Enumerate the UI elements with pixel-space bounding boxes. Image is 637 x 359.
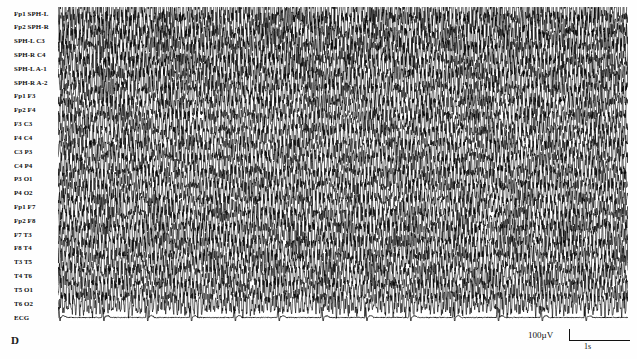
eeg-trace-p3-o1 [58,161,628,194]
channel-label-t4-t6: T4 T6 [14,272,32,280]
channel-label-fp2-f4: Fp2 F4 [14,106,35,114]
time-scale-label: 1s [584,342,591,351]
channel-label-ecg: ECG [14,314,29,322]
channel-label-p4-o2: P4 O2 [14,189,33,197]
channel-label-fp1-sph-l: Fp1 SPH-L [14,10,48,18]
channel-label-f4-c4: F4 C4 [14,134,32,142]
channel-label-sph-l-a-1: SPH-L A-1 [14,65,47,73]
amplitude-scale-label: 100µV [528,330,553,340]
channel-label-sph-l-c3: SPH-L C3 [14,37,45,45]
channel-label-sph-r-c4: SPH-R C4 [14,51,46,59]
eeg-trace-area [58,7,628,321]
trace-group [58,7,628,321]
panel-label: D [11,334,19,346]
channel-label-f7-t3: F7 T3 [14,231,32,239]
channel-label-fp2-f8: Fp2 F8 [14,217,35,225]
channel-label-t6-o2: T6 O2 [14,300,33,308]
channel-label-c3-p3: C3 P3 [14,148,32,156]
channel-label-fp2-sph-r: Fp2 SPH-R [14,23,49,31]
eeg-figure: Fp1 SPH-LFp2 SPH-RSPH-L C3SPH-R C4SPH-L … [0,0,637,359]
channel-label-t5-o1: T5 O1 [14,286,33,294]
channel-label-sph-r-a-2: SPH-R A-2 [14,79,48,87]
channel-label-c4-p4: C4 P4 [14,162,32,170]
channel-label-column: Fp1 SPH-LFp2 SPH-RSPH-L C3SPH-R C4SPH-L … [0,0,58,322]
channel-label-p3-o1: P3 O1 [14,175,33,183]
channel-label-f3-c3: F3 C3 [14,120,32,128]
channel-label-fp1-f7: Fp1 F7 [14,203,35,211]
channel-label-fp1-f3: Fp1 F3 [14,92,35,100]
time-scale-bar [569,340,630,341]
calibration-bar: 100µV 1s [528,328,634,354]
channel-label-t3-t5: T3 T5 [14,258,32,266]
channel-label-f8-t4: F8 T4 [14,244,32,252]
eeg-trace-canvas [58,7,628,321]
